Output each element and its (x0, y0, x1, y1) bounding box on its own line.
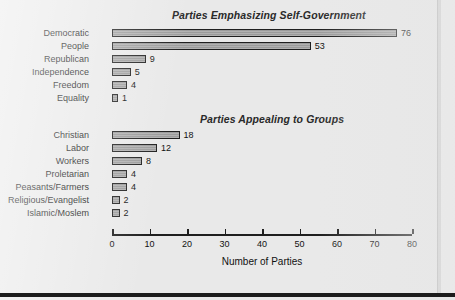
bar-row: Freedom4 (0, 80, 437, 91)
x-axis-tick-label: 80 (397, 239, 427, 249)
bar-row: Republican9 (0, 54, 437, 65)
bar-category-label: Freedom (0, 80, 89, 91)
bar-value-label: 4 (131, 182, 136, 193)
x-axis-line (112, 234, 412, 236)
x-axis-tick (187, 229, 189, 234)
x-axis-tick-label: 10 (135, 239, 165, 249)
chart-title-groups: Parties Appealing to Groups (200, 113, 344, 125)
x-axis-tick (112, 229, 114, 234)
page-bottom-border (0, 293, 455, 297)
bar-category-label: Workers (0, 156, 89, 167)
x-axis-tick (225, 229, 227, 234)
bar-category-label: Equality (0, 93, 89, 104)
bar-value-label: 53 (315, 41, 325, 52)
x-axis-tick-label: 20 (172, 239, 202, 249)
bar-value-label: 76 (401, 28, 411, 39)
x-axis-tick-label: 30 (210, 239, 240, 249)
bar-category-label: Democratic (0, 28, 89, 39)
bar-row: Democratic76 (0, 28, 437, 39)
bar-category-label: Independence (0, 67, 89, 78)
bar-row: Proletarian4 (0, 169, 437, 180)
bar-category-label: Labor (0, 143, 89, 154)
bar-row: Islamic/Moslem2 (0, 208, 437, 219)
x-axis-tick-label: 60 (322, 239, 352, 249)
bar-category-label: Religious/Evangelist (0, 195, 89, 206)
bar-value-label: 12 (161, 143, 171, 154)
bar (112, 94, 118, 102)
bar (112, 209, 120, 217)
x-axis-tick-label: 50 (285, 239, 315, 249)
x-axis-tick-label: 0 (97, 239, 127, 249)
bar-row: Peasants/Farmers4 (0, 182, 437, 193)
bar-row: Independence5 (0, 67, 437, 78)
bar-category-label: Islamic/Moslem (0, 208, 89, 219)
bar-row: People53 (0, 41, 437, 52)
bar-value-label: 8 (146, 156, 151, 167)
bar-category-label: Christian (0, 130, 89, 141)
bar-value-label: 4 (131, 169, 136, 180)
x-axis-tick (150, 229, 152, 234)
bar-value-label: 1 (122, 93, 127, 104)
chart-title-self-government: Parties Emphasizing Self-Government (172, 9, 366, 21)
bar-row: Workers8 (0, 156, 437, 167)
bar-value-label: 2 (124, 208, 129, 219)
bar (112, 157, 142, 165)
bar (112, 42, 311, 50)
bar-category-label: Republican (0, 54, 89, 65)
bar-category-label: Peasants/Farmers (0, 182, 89, 193)
bar-value-label: 2 (124, 195, 129, 206)
bar (112, 81, 127, 89)
bar-row: Equality1 (0, 93, 437, 104)
bar (112, 170, 127, 178)
bar (112, 55, 146, 63)
bar (112, 196, 120, 204)
bar-category-label: Proletarian (0, 169, 89, 180)
figure-canvas: Parties Emphasizing Self-Government Demo… (0, 0, 455, 300)
bar-value-label: 4 (131, 80, 136, 91)
x-axis-tick (262, 229, 264, 234)
x-axis-tick (412, 229, 414, 234)
x-axis-tick-label: 70 (360, 239, 390, 249)
bar-row: Religious/Evangelist2 (0, 195, 437, 206)
bar-category-label: People (0, 41, 89, 52)
x-axis-tick (375, 229, 377, 234)
bar (112, 183, 127, 191)
x-axis-label: Number of Parties (112, 256, 412, 267)
bar (112, 29, 397, 37)
bar (112, 144, 157, 152)
page-right-border (437, 0, 441, 296)
bar (112, 131, 180, 139)
bar-value-label: 5 (135, 67, 140, 78)
page-edge-shade (440, 0, 455, 296)
bar-row: Labor12 (0, 143, 437, 154)
bar-value-label: 18 (184, 130, 194, 141)
bar-row: Christian18 (0, 130, 437, 141)
bar (112, 68, 131, 76)
x-axis-tick-label: 40 (247, 239, 277, 249)
bar-value-label: 9 (150, 54, 155, 65)
x-axis-tick (300, 229, 302, 234)
x-axis-tick (337, 229, 339, 234)
